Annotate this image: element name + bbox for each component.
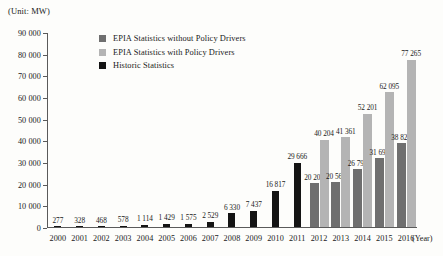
x-axis-tick-label: 2008 bbox=[224, 234, 241, 243]
bar-value-label: 328 bbox=[74, 216, 85, 225]
bar: 1 575 bbox=[185, 224, 192, 227]
y-axis-tick-label: 0 bbox=[37, 224, 41, 233]
x-axis-tick-label: 2013 bbox=[332, 234, 349, 243]
y-axis-tick bbox=[43, 228, 47, 229]
x-axis-tick-label: 2000 bbox=[49, 234, 66, 243]
bar: 31 690 bbox=[375, 158, 384, 227]
bar: 1 114 bbox=[141, 225, 148, 227]
bar: 328 bbox=[76, 226, 83, 227]
solar-capacity-bar-chart: (Unit: MW) EPIA Statistics without Polic… bbox=[0, 0, 443, 256]
bar-group: 20 56541 361 bbox=[330, 33, 352, 227]
bar-group: 1 429 bbox=[156, 33, 178, 227]
bar: 578 bbox=[120, 226, 127, 227]
bar: 52 201 bbox=[363, 114, 372, 227]
x-axis-tick-label: 2011 bbox=[289, 234, 305, 243]
y-axis-tick-label: 60 000 bbox=[18, 94, 41, 103]
y-axis-tick-label: 70 000 bbox=[18, 72, 41, 81]
x-axis-tick-label: 2004 bbox=[137, 234, 154, 243]
x-axis-tick-label: 2015 bbox=[376, 234, 393, 243]
bar-group: 277 bbox=[47, 33, 69, 227]
bar: 468 bbox=[98, 226, 105, 227]
x-axis-tick-label: 2001 bbox=[71, 234, 88, 243]
bar: 277 bbox=[54, 226, 61, 227]
bar: 1 429 bbox=[163, 224, 170, 227]
y-axis-tick-label: 20 000 bbox=[18, 180, 41, 189]
y-axis-tick-label: 30 000 bbox=[18, 159, 41, 168]
x-axis-tick-label: 2010 bbox=[267, 234, 284, 243]
bar: 20 565 bbox=[331, 182, 340, 227]
bar: 38 822 bbox=[397, 143, 406, 227]
unit-label: (Unit: MW) bbox=[8, 6, 50, 16]
bar-group: 6 330 bbox=[221, 33, 243, 227]
bar: 20 206 bbox=[310, 183, 319, 227]
bar-value-label: 578 bbox=[118, 215, 129, 224]
bar-group: 578 bbox=[112, 33, 134, 227]
x-axis-line bbox=[47, 227, 417, 228]
bar-group: 16 817 bbox=[265, 33, 287, 227]
x-axis-tick-label: 2009 bbox=[245, 234, 262, 243]
bar-value-label: 1 429 bbox=[159, 213, 175, 222]
bar-value-label: 468 bbox=[96, 216, 107, 225]
x-axis-title: (Year) bbox=[412, 234, 433, 243]
bar-group: 1 575 bbox=[178, 33, 200, 227]
bar: 62 095 bbox=[385, 92, 394, 227]
x-axis-tick-label: 2003 bbox=[115, 234, 132, 243]
bar-group: 1 114 bbox=[134, 33, 156, 227]
bar-group: 20 20640 204 bbox=[308, 33, 330, 227]
x-axis-tick-label: 2012 bbox=[311, 234, 328, 243]
bar-group: 7 437 bbox=[243, 33, 265, 227]
bar: 77 265 bbox=[407, 60, 416, 227]
bar: 7 437 bbox=[250, 211, 257, 227]
bar: 29 666 bbox=[294, 163, 301, 227]
bar: 26 790 bbox=[353, 169, 362, 227]
bar: 40 204 bbox=[320, 140, 329, 227]
bar-value-label: 77 265 bbox=[401, 49, 421, 58]
bar-group-container: 2773284685781 1141 4291 5752 5296 3307 4… bbox=[47, 33, 417, 227]
bar-group: 468 bbox=[91, 33, 113, 227]
y-axis-tick-label: 50 000 bbox=[18, 115, 41, 124]
bar-group: 26 79052 201 bbox=[352, 33, 374, 227]
bar-group: 2 529 bbox=[199, 33, 221, 227]
y-axis-tick-label: 80 000 bbox=[18, 50, 41, 59]
x-axis-labels: 2000200120022003200420052006200720082009… bbox=[47, 234, 417, 248]
y-axis-tick-label: 10 000 bbox=[18, 202, 41, 211]
y-axis-tick-label: 40 000 bbox=[18, 137, 41, 146]
y-axis-tick-label: 90 000 bbox=[18, 29, 41, 38]
bar: 16 817 bbox=[272, 191, 279, 227]
x-axis-tick-label: 2014 bbox=[354, 234, 371, 243]
bar-group: 29 666 bbox=[286, 33, 308, 227]
bar-value-label: 16 817 bbox=[266, 180, 286, 189]
bar-value-label: 29 666 bbox=[287, 152, 307, 161]
bar-value-label: 277 bbox=[52, 216, 63, 225]
bar: 41 361 bbox=[341, 137, 350, 227]
bar-group: 31 69062 095 bbox=[373, 33, 395, 227]
bar-group: 38 82277 265 bbox=[395, 33, 417, 227]
x-axis-tick-label: 2007 bbox=[202, 234, 219, 243]
bar: 2 529 bbox=[207, 222, 214, 227]
bar-group: 328 bbox=[69, 33, 91, 227]
x-axis-tick-label: 2006 bbox=[180, 234, 197, 243]
bar-value-label: 1 575 bbox=[180, 213, 196, 222]
bar-value-label: 6 330 bbox=[224, 203, 240, 212]
x-axis-tick-label: 2005 bbox=[158, 234, 175, 243]
bar-value-label: 1 114 bbox=[137, 214, 153, 223]
bar: 6 330 bbox=[228, 213, 235, 227]
bar-value-label: 2 529 bbox=[202, 211, 218, 220]
x-axis-tick-label: 2002 bbox=[93, 234, 110, 243]
plot-area: 90 00080 00070 00060 00050 00040 00030 0… bbox=[47, 33, 417, 228]
bar-value-label: 7 437 bbox=[246, 200, 262, 209]
